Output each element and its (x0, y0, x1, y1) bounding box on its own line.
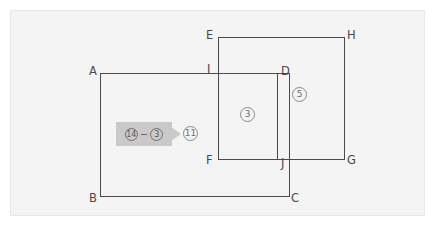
vertex-label-j: J (281, 158, 284, 170)
callout-operand-right: 3 (150, 128, 163, 141)
diagram-canvas: A B C D E F G H I J 3 5 14−3 11 (0, 0, 437, 232)
vertex-label-d: D (281, 66, 290, 78)
callout-box: 14−3 (116, 122, 172, 146)
vertex-label-b: B (89, 193, 97, 205)
callout-arrow-icon (171, 127, 181, 141)
region-label-overlap: 3 (240, 107, 255, 122)
vertex-label-a: A (89, 66, 97, 78)
vertex-label-g: G (347, 155, 356, 167)
callout-expression: 14−3 (116, 126, 172, 143)
vertex-label-c: C (291, 193, 299, 205)
callout-operand-left: 14 (125, 128, 138, 141)
callout-result: 11 (183, 126, 198, 141)
vertex-label-i: I (207, 64, 210, 76)
vertex-label-f: F (206, 155, 213, 167)
vertex-label-h: H (347, 30, 356, 42)
vertex-label-e: E (206, 30, 213, 42)
callout-operator: − (138, 127, 150, 143)
region-label-upper-right: 5 (292, 87, 307, 102)
